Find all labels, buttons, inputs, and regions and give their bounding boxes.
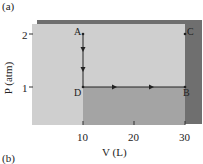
x-axis-label: V (L) [102,146,127,158]
y-tick-2: 2 [22,29,28,41]
point-label-d: D [74,87,81,98]
y-axis-label: P (atm) [2,62,14,94]
panel-label-b: (b) [2,153,15,164]
point-label-a: A [74,26,81,37]
point-label-b: B [183,87,190,98]
point-label-c: C [187,26,194,37]
x-tick-20: 20 [128,131,139,143]
y-tick-1: 1 [22,82,28,94]
x-tick-30: 30 [179,131,190,143]
process-paths [0,0,203,164]
x-tick-10: 10 [77,131,88,143]
